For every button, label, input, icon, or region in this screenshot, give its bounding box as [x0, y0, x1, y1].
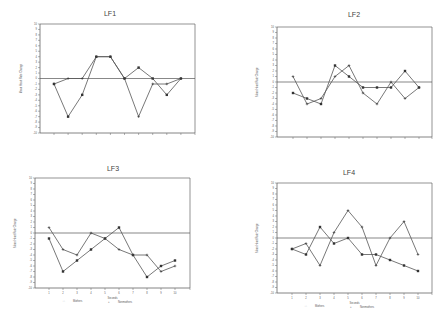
- square-marker: [76, 259, 78, 261]
- y-tick-label: -7: [272, 274, 275, 278]
- plus-marker: [417, 253, 420, 256]
- y-tick-label: 2: [31, 220, 33, 224]
- x-tick-label: 2: [305, 296, 307, 300]
- y-tick-label: 3: [36, 60, 38, 64]
- y-tick-label: 9: [36, 27, 38, 31]
- square-marker: [389, 259, 391, 261]
- y-tick-label: 10: [29, 176, 32, 180]
- y-tick-label: -3: [272, 252, 275, 256]
- y-tick-label: -3: [30, 247, 33, 251]
- x-axis-label: Seconds: [107, 296, 118, 300]
- x-tick-label: 6: [361, 296, 363, 300]
- square-marker: [390, 86, 392, 88]
- square-marker: [146, 276, 148, 278]
- y-tick-label: -6: [272, 113, 275, 117]
- x-tick-label: 1: [291, 296, 293, 300]
- plus-marker: [151, 83, 154, 86]
- y-tick-label: 0: [31, 231, 33, 235]
- y-tick-label: -6: [272, 269, 275, 273]
- y-tick-label: -7: [35, 115, 38, 119]
- square-marker: [348, 75, 350, 77]
- y-tick-label: -7: [272, 118, 275, 122]
- y-tick-label: -5: [35, 104, 38, 108]
- y-tick-label: 0: [36, 76, 38, 80]
- y-tick-label: 0: [273, 80, 275, 84]
- y-tick-label: 5: [273, 52, 275, 56]
- y-tick-label: 4: [273, 58, 275, 62]
- legend-mothers-label: Mothers: [73, 299, 83, 303]
- square-marker: [48, 237, 50, 239]
- legend-mothers-label: Mothers: [315, 304, 325, 308]
- square-marker: [90, 248, 92, 250]
- x-tick-label: 5: [347, 296, 349, 300]
- y-axis-label: Mean Heart Rate Change: [255, 67, 259, 97]
- y-tick-label: 3: [31, 214, 33, 218]
- square-marker: [404, 70, 406, 72]
- y-tick-label: 9: [273, 186, 275, 190]
- x-tick-label: 1: [48, 291, 50, 295]
- y-tick-label: 1: [273, 74, 275, 78]
- square-marker: [81, 94, 83, 96]
- x-tick-label: 8: [389, 296, 391, 300]
- square-marker: [375, 253, 377, 255]
- y-tick-label: 4: [31, 209, 33, 213]
- series-line-mothers: [292, 227, 418, 271]
- y-tick-label: 8: [273, 192, 275, 196]
- y-tick-label: -4: [272, 258, 275, 262]
- chart-svg: LF3109876543210-1-2-3-4-5-6-7-8-9-101234…: [0, 158, 221, 317]
- legend-mothers-symbol: □: [63, 300, 65, 303]
- series-line-mothers: [293, 66, 419, 105]
- y-tick-label: -9: [35, 125, 38, 129]
- y-tick-label: 5: [31, 203, 33, 207]
- square-marker: [334, 64, 336, 66]
- square-marker: [305, 253, 307, 255]
- y-tick-label: 7: [36, 38, 38, 42]
- y-tick-label: -4: [272, 102, 275, 106]
- y-tick-label: -1: [272, 241, 275, 245]
- square-marker: [320, 103, 322, 105]
- x-tick-label: 10: [174, 291, 177, 295]
- square-marker: [292, 92, 294, 94]
- x-tick-label: 10: [417, 296, 420, 300]
- x-tick-label: 6: [118, 291, 120, 295]
- y-axis-label: Mean Heart Rate Change: [255, 223, 259, 253]
- series-line-mothers: [54, 57, 181, 117]
- legend-nonmothers-symbol: +: [108, 301, 110, 304]
- x-axis-label: Seconds: [349, 301, 360, 305]
- y-tick-label: 5: [273, 208, 275, 212]
- y-tick-label: -10: [270, 291, 274, 295]
- series-line-mothers: [49, 228, 175, 278]
- plus-marker: [166, 83, 169, 86]
- square-marker: [62, 270, 64, 272]
- chart-svg: LF1109876543210-1-2-3-4-5-6-7-8-9-10Mean…: [0, 0, 221, 158]
- square-marker: [403, 264, 405, 266]
- y-tick-label: 7: [273, 197, 275, 201]
- y-tick-label: -10: [28, 286, 32, 290]
- y-tick-label: -2: [30, 242, 33, 246]
- y-tick-label: -3: [35, 93, 38, 97]
- square-marker: [417, 270, 419, 272]
- y-tick-label: 6: [273, 47, 275, 51]
- y-axis-label: Mean Heart Rate Change: [13, 218, 17, 248]
- chart-svg: LF4109876543210-1-2-3-4-5-6-7-8-9-101234…: [221, 158, 442, 317]
- y-tick-label: -5: [30, 258, 33, 262]
- x-tick-label: 7: [375, 296, 377, 300]
- y-tick-label: 0: [273, 236, 275, 240]
- y-tick-label: 8: [273, 36, 275, 40]
- x-tick-label: 4: [90, 291, 92, 295]
- x-tick-label: 9: [403, 296, 405, 300]
- square-marker: [347, 237, 349, 239]
- legend-nonmothers-label: Nonmothers: [360, 305, 375, 309]
- y-tick-label: 1: [273, 230, 275, 234]
- x-tick-label: 3: [319, 296, 321, 300]
- y-tick-label: 3: [273, 219, 275, 223]
- y-tick-label: 4: [273, 214, 275, 218]
- y-tick-label: 10: [34, 22, 37, 26]
- series-line-nonmothers: [54, 57, 181, 117]
- y-tick-label: -9: [272, 129, 275, 133]
- square-marker: [306, 97, 308, 99]
- legend-nonmothers-label: Nonmothers: [118, 300, 133, 304]
- chart-lf2: LF2109876543210-1-2-3-4-5-6-7-8-9-10Mean…: [221, 0, 442, 158]
- y-tick-label: -2: [35, 87, 38, 91]
- chart-title: LF4: [343, 169, 355, 176]
